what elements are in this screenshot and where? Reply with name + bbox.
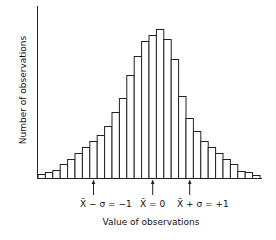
- marker-label-minus-sigma: X̄ − σ = −1: [80, 198, 132, 209]
- histogram-bar: [245, 173, 252, 179]
- histogram-bar: [208, 148, 215, 179]
- histogram-bar: [53, 171, 60, 179]
- histogram-bar: [216, 154, 223, 179]
- arrow-up-icon: [188, 180, 192, 185]
- histogram-bar: [238, 172, 245, 179]
- histogram-bar: [134, 57, 141, 179]
- histogram-bar: [38, 175, 45, 179]
- histogram-bar: [179, 97, 186, 179]
- histogram-bar: [60, 165, 67, 179]
- histogram-bar: [193, 132, 200, 179]
- histogram-bar: [82, 148, 89, 179]
- histogram-bar: [97, 136, 104, 179]
- x-axis-label: Value of observations: [102, 217, 199, 227]
- marker-label-plus-sigma: X̄ + σ = +1: [177, 198, 229, 209]
- histogram-bar: [142, 42, 149, 179]
- histogram-bar: [171, 60, 178, 179]
- histogram-bar: [105, 127, 112, 179]
- arrow-up-icon: [151, 180, 155, 185]
- histogram-chart: X̄ − σ = −1 X̄ = 0 X̄ + σ = +1 Value of …: [0, 0, 276, 240]
- histogram-bar: [119, 99, 126, 179]
- histogram-bar: [112, 113, 119, 179]
- histogram-bar: [156, 30, 163, 179]
- histogram-bar: [230, 165, 237, 179]
- histogram-bars: [38, 30, 260, 179]
- histogram-bar: [149, 36, 156, 179]
- marker-label-mean: X̄ = 0: [140, 198, 165, 209]
- histogram-bar: [223, 160, 230, 179]
- histogram-bar: [127, 76, 134, 179]
- histogram-bar: [201, 142, 208, 179]
- histogram-bar: [68, 160, 75, 179]
- histogram-bar: [186, 119, 193, 179]
- histogram-bar: [164, 40, 171, 179]
- histogram-bar: [90, 142, 97, 179]
- histogram-bar: [45, 173, 52, 179]
- histogram-bar: [75, 154, 82, 179]
- y-axis-label: Number of observations: [18, 35, 28, 144]
- sigma-markers: [92, 180, 192, 196]
- arrow-up-icon: [92, 180, 96, 185]
